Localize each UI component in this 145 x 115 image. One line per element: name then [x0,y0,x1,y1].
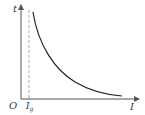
x-axis-label: I [129,101,135,112]
marker-label: Ig [25,101,34,113]
y-axis-label: t [13,3,18,14]
decay-curve [33,12,122,96]
origin-label: O [9,100,17,111]
graph-diagram: t O Ig I [0,0,145,115]
marker-label-sub: g [30,105,34,113]
